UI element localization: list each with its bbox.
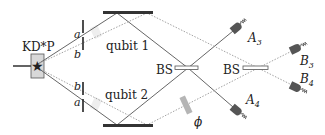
bs-2-label: BS xyxy=(223,63,240,77)
slit-upper-b-label: b xyxy=(74,48,81,61)
slit-lower-b-label: b xyxy=(74,80,81,93)
phase-label: ϕ xyxy=(194,115,202,129)
bs-1-label: BS xyxy=(156,63,173,77)
crystal-label: KD*P xyxy=(22,40,55,54)
star-icon: ★ xyxy=(31,58,44,74)
detector-a3-label: A3 xyxy=(247,31,262,47)
slit-upper-a-label: a xyxy=(74,28,81,41)
qubit-2-label: qubit 2 xyxy=(105,88,148,102)
detector-b3-icon xyxy=(289,40,309,55)
beam-splitter-2 xyxy=(243,66,268,70)
qubit-1-label: qubit 1 xyxy=(106,39,149,53)
detector-a4-label: A4 xyxy=(245,93,260,109)
detector-b3-label: B3 xyxy=(299,54,314,70)
beam-splitter-1 xyxy=(175,66,198,70)
slit-lower-a-label: a xyxy=(74,96,81,109)
quantum-optics-diagram: ★ KD*P a b b a qubit 1 qubit 2 BS BS ϕ A… xyxy=(0,0,325,135)
detector-b4-label: B4 xyxy=(299,72,314,88)
path-a xyxy=(38,13,233,125)
mirror-bottom xyxy=(103,124,153,127)
mirror-top xyxy=(103,11,153,14)
phase-shifter xyxy=(179,96,192,115)
